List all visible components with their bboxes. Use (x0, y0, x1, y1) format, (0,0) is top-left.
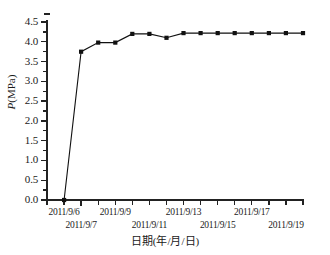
series-layer (0, 0, 330, 255)
data-point (216, 31, 220, 35)
data-point (233, 31, 237, 35)
data-markers (62, 31, 305, 202)
chart-figure: 0.00.51.01.52.02.53.03.54.04.5 P(MPa) 20… (0, 0, 330, 255)
data-point (79, 50, 83, 54)
data-point (130, 32, 134, 36)
data-point (62, 198, 66, 202)
data-point (147, 32, 151, 36)
data-point (267, 31, 271, 35)
data-point (113, 41, 117, 45)
data-point (284, 31, 288, 35)
data-point (301, 31, 305, 35)
data-line (64, 33, 303, 200)
data-point (250, 31, 254, 35)
data-point (181, 31, 185, 35)
data-point (164, 36, 168, 40)
data-point (199, 31, 203, 35)
data-point (96, 41, 100, 45)
